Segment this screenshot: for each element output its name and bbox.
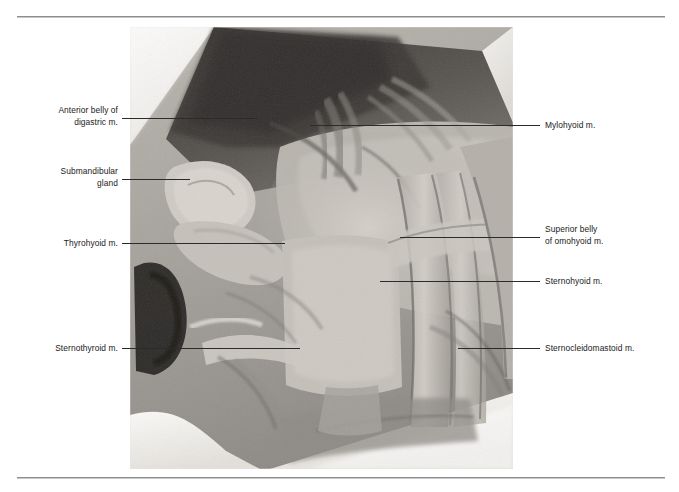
label-superior-belly-of-omohyoid: Superior belly of omohyoid m. — [545, 224, 603, 247]
leader-line-submandibular-gland — [122, 179, 190, 180]
leader-line-sternothyroid — [122, 348, 300, 349]
label-submandibular-gland: Submandibular gland — [61, 166, 118, 189]
leader-line-superior-belly-of-omohyoid — [400, 237, 540, 238]
photo-canvas — [130, 27, 513, 469]
bottom-divider-rule — [17, 477, 665, 479]
figure-page: Anterior belly of digastric m. Submandib… — [0, 0, 679, 492]
label-thyrohyoid: Thyrohyoid m. — [64, 238, 118, 250]
leader-line-sternohyoid — [380, 281, 540, 282]
leader-line-thyrohyoid — [122, 243, 285, 244]
top-divider-rule — [17, 16, 665, 18]
leader-line-sternocleidomastoid — [458, 348, 540, 349]
leader-line-mylohyoid — [310, 125, 540, 126]
label-mylohyoid: Mylohyoid m. — [545, 120, 595, 132]
label-sternocleidomastoid: Sternocleidomastoid m. — [545, 343, 634, 355]
anatomical-photograph — [130, 27, 513, 469]
leader-line-anterior-belly-of-digastric — [122, 118, 258, 119]
label-sternothyroid: Sternothyroid m. — [55, 343, 118, 355]
label-anterior-belly-of-digastric: Anterior belly of digastric m. — [58, 105, 118, 128]
label-sternohyoid: Sternohyoid m. — [545, 276, 603, 288]
